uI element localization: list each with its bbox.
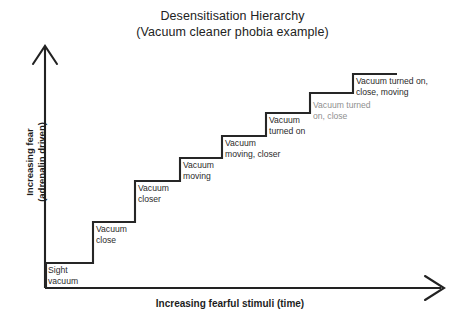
step-6-line-2: turned on <box>269 126 305 137</box>
diagram-canvas: Desensitisation Hierarchy (Vacuum cleane… <box>0 0 465 325</box>
step-3-line-1: Vacuum <box>138 183 169 194</box>
step-7-line-2: on, close <box>313 111 371 122</box>
x-axis-label: Increasing fearful stimuli (time) <box>110 298 350 309</box>
x-axis <box>45 276 444 300</box>
y-axis-label-line-2: (adrenalin driven) <box>36 82 48 242</box>
step-2-line-2: close <box>96 235 127 246</box>
step-label-vacuum-turned-on-close-moving: Vacuum turned on, close, moving <box>356 76 428 99</box>
y-axis-label-line-1: Increasing fear <box>24 82 36 242</box>
step-1-line-2: vacuum <box>48 276 78 287</box>
step-5-line-2: moving, closer <box>225 149 280 160</box>
step-3-line-2: closer <box>138 194 169 205</box>
step-label-vacuum-close: Vacuum close <box>96 224 127 247</box>
step-8-line-1: Vacuum turned on, <box>356 76 428 87</box>
step-4-line-1: Vacuum <box>183 160 214 171</box>
step-5-line-1: Vacuum <box>225 138 280 149</box>
step-label-vacuum-moving: Vacuum moving <box>183 160 214 183</box>
step-8-line-2: close, moving <box>356 87 428 98</box>
step-label-vacuum-turned-on: Vacuum turned on <box>269 115 305 138</box>
step-label-vacuum-closer: Vacuum closer <box>138 183 169 206</box>
step-label-vacuum-turned-on-close: Vacuum turned on, close <box>313 100 371 123</box>
y-axis-label: Increasing fear (adrenalin driven) <box>24 82 48 242</box>
step-label-sight-vacuum: Sight vacuum <box>48 265 78 288</box>
step-4-line-2: moving <box>183 171 214 182</box>
step-2-line-1: Vacuum <box>96 224 127 235</box>
step-label-vacuum-moving-closer: Vacuum moving, closer <box>225 138 280 161</box>
step-1-line-1: Sight <box>48 265 78 276</box>
step-6-line-1: Vacuum <box>269 115 305 126</box>
step-7-line-1: Vacuum turned <box>313 100 371 111</box>
